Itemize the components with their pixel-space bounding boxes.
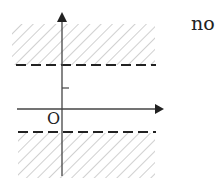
upper-shaded-region bbox=[12, 24, 155, 65]
origin-label: O bbox=[47, 109, 60, 128]
x-axis-arrow-icon bbox=[155, 104, 164, 114]
lower-shaded-region bbox=[18, 133, 155, 178]
answer-label: no bbox=[191, 12, 215, 34]
y-axis-arrow-icon bbox=[57, 12, 67, 22]
